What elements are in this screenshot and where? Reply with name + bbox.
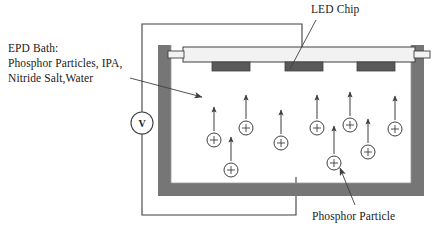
led-chip — [357, 62, 395, 71]
phosphor-particle — [239, 95, 253, 135]
phosphor-particle — [361, 119, 375, 159]
electrode-stub-right — [414, 51, 430, 58]
phosphor-particle — [310, 95, 324, 135]
phosphor-particle — [343, 92, 357, 132]
led-chip — [212, 62, 250, 71]
vessel-wall-right — [411, 45, 424, 196]
led-chip — [285, 62, 323, 71]
electrode-stub-left — [168, 51, 184, 58]
top-electrode-substrate — [168, 47, 430, 62]
phosphor-particle — [274, 110, 288, 150]
phosphor-particle — [388, 96, 402, 136]
led-chip-label: LED Chip — [311, 2, 359, 17]
phosphor-particle — [207, 107, 221, 147]
epd-bath-line-3: Nitride Salt,Water — [8, 71, 122, 86]
epd-diagram-figure: V — [0, 0, 445, 234]
phosphor-particle — [327, 126, 341, 170]
vessel-wall-left — [158, 45, 171, 196]
voltage-source-symbol: V — [131, 112, 153, 134]
led-chip-group — [212, 62, 395, 71]
phosphor-particle-group — [207, 92, 402, 177]
voltage-source-label: V — [138, 118, 146, 129]
epd-bath-line-2: Phosphor Particles, IPA, — [8, 56, 122, 71]
epd-bath-label: EPD Bath: Phosphor Particles, IPA, Nitri… — [8, 41, 122, 86]
vessel-wall-bottom — [158, 183, 424, 196]
diagram-canvas: V — [0, 0, 445, 234]
epd-bath-line-1: EPD Bath: — [8, 41, 122, 56]
phosphor-particle — [224, 137, 238, 177]
electrode-bar — [183, 47, 415, 62]
phosphor-particle-label: Phosphor Particle — [312, 209, 395, 224]
